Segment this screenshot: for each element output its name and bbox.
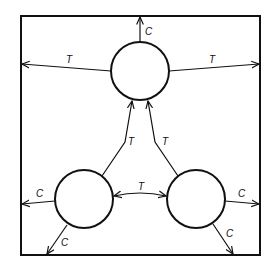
arrow-br-right [225,201,259,204]
node-top [111,42,169,100]
label-br-right: C [238,188,246,199]
arrow-top-right [169,64,259,71]
label-bl-br: T [138,181,145,192]
arrow-bl-left [22,201,55,204]
label-bl-left: C [36,188,44,199]
diagram-canvas: C T T T T T C C C C [0,0,272,271]
label-bl-down: C [61,237,69,248]
arrow-top-left [22,64,111,71]
label-top-left: T [66,54,73,65]
label-top-right: T [209,54,216,65]
node-bottom-right [167,170,225,228]
label-br-to-top: T [162,136,169,147]
label-br-down: C [226,228,234,239]
node-bottom-left [55,170,113,228]
arrow-bl-br [114,193,166,196]
label-bl-to-top: T [128,136,135,147]
label-top-up: C [145,26,153,37]
